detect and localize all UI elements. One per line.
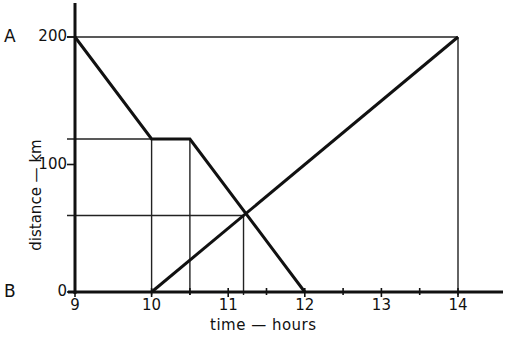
data-series — [75, 37, 458, 292]
y-tick-label: 0 — [27, 282, 67, 300]
x-tick-label: 12 — [295, 296, 314, 314]
axes — [68, 3, 503, 294]
x-tick-label: 10 — [142, 296, 161, 314]
axis-ticks — [67, 37, 458, 297]
x-tick-label: 11 — [219, 296, 238, 314]
x-axis-label: time — hours — [210, 316, 317, 334]
y-tick-label: 200 — [27, 27, 67, 45]
point-label-b: B — [4, 281, 16, 301]
x-tick-label: 9 — [70, 296, 80, 314]
x-tick-label: 13 — [372, 296, 391, 314]
y-tick-label: 100 — [27, 155, 67, 173]
point-label-a: A — [4, 26, 16, 46]
reference-lines — [67, 37, 458, 295]
distance-time-graph — [0, 0, 516, 345]
x-tick-label: 14 — [448, 296, 467, 314]
series-journey-from-b — [152, 37, 458, 292]
